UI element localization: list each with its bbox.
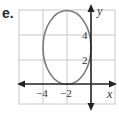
x-tick-label: −2 xyxy=(60,87,72,99)
y-axis-label: y xyxy=(96,4,103,18)
coordinate-graph: y x −4 −2 2 4 xyxy=(0,0,119,113)
x-axis-label: x xyxy=(106,87,113,101)
y-tick-label: 4 xyxy=(82,29,88,41)
y-tick-label: 2 xyxy=(82,54,88,66)
x-tick-label: −4 xyxy=(36,87,48,99)
y-axis xyxy=(88,4,95,111)
